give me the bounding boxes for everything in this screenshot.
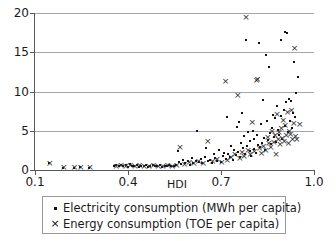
data-point-energy — [173, 162, 180, 169]
data-point-energy — [199, 160, 206, 167]
data-point-electricity — [226, 116, 228, 118]
data-point-electricity — [258, 42, 260, 44]
data-point-electricity — [230, 145, 232, 147]
data-point-electricity — [285, 101, 287, 103]
data-point-electricity — [245, 39, 247, 41]
data-point-energy — [86, 164, 93, 171]
data-point-electricity — [243, 135, 245, 137]
data-point-electricity — [256, 134, 258, 136]
square-marker-icon — [49, 202, 61, 214]
data-point-electricity — [238, 121, 240, 123]
y-axis-tick-label: 5 — [3, 125, 29, 137]
data-point-electricity — [268, 66, 270, 68]
data-point-energy — [60, 164, 67, 171]
cross-marker-icon: × — [49, 218, 61, 230]
x-axis-tick-label: 0.7 — [201, 175, 241, 189]
data-point-electricity — [266, 120, 268, 122]
data-point-electricity — [262, 99, 264, 101]
data-point-energy — [234, 92, 241, 99]
legend-item-energy: × Energy consumption (TOE per capita) — [49, 216, 279, 232]
legend-item-electricity: Electricity consumption (MWh per capita) — [49, 200, 279, 216]
data-point-electricity — [218, 149, 220, 151]
data-point-electricity — [249, 140, 251, 142]
data-point-electricity — [252, 130, 254, 132]
y-axis-tick-label: 10 — [3, 86, 29, 98]
x-axis-title: HDI — [155, 178, 199, 191]
data-point-electricity — [240, 142, 242, 144]
data-point-energy — [46, 160, 53, 167]
legend-label-energy: Energy consumption (TOE per capita) — [61, 217, 279, 231]
data-point-electricity — [280, 39, 282, 41]
data-point-energy — [293, 136, 300, 143]
data-point-electricity — [241, 112, 243, 114]
y-axis-tick-label: 15 — [3, 46, 29, 58]
data-point-electricity — [290, 100, 292, 102]
data-point-electricity — [223, 152, 225, 154]
data-point-energy — [288, 107, 295, 114]
plot-area — [35, 13, 314, 170]
data-point-electricity — [247, 131, 249, 133]
data-point-electricity — [253, 138, 255, 140]
x-axis-tick-label: 1.0 — [294, 175, 334, 189]
data-point-energy — [254, 76, 261, 83]
y-axis-tick-label: 20 — [3, 7, 29, 19]
data-point-energy — [291, 45, 298, 52]
data-point-energy — [242, 14, 249, 21]
data-point-electricity — [236, 126, 238, 128]
data-point-electricity — [196, 130, 198, 132]
data-point-energy — [222, 78, 229, 85]
data-point-electricity — [295, 92, 297, 94]
legend-label-electricity: Electricity consumption (MWh per capita) — [61, 201, 301, 215]
data-point-electricity — [265, 54, 267, 56]
x-axis-tick-label: 0.4 — [108, 175, 148, 189]
data-point-energy — [204, 138, 211, 145]
data-point-electricity — [260, 123, 262, 125]
data-point-electricity — [293, 61, 295, 63]
data-point-electricity — [286, 32, 288, 34]
data-point-energy — [176, 144, 183, 151]
data-point-energy — [272, 151, 279, 158]
data-point-electricity — [297, 76, 299, 78]
x-axis-tick-label: 0.1 — [15, 175, 55, 189]
scatter-chart: 05101520 0.10.40.71.0 HDI Electricity co… — [0, 0, 336, 241]
y-axis-tick-labels: 05101520 — [0, 0, 29, 200]
data-point-electricity — [205, 147, 207, 149]
data-point-energy — [248, 119, 255, 126]
data-point-energy — [296, 121, 303, 128]
chart-legend: Electricity consumption (MWh per capita)… — [42, 196, 286, 234]
data-point-electricity — [276, 105, 278, 107]
data-point-energy — [77, 164, 84, 171]
